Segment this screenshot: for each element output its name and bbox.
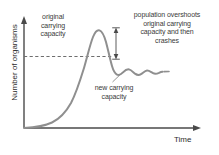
x-axis-arrowhead <box>193 125 201 131</box>
population-overshoot-diagram: original carrying capacity population ov… <box>0 0 219 155</box>
x-axis-label: Time <box>174 135 191 144</box>
overshoot-arrow-head-bottom <box>114 54 119 60</box>
x-axis <box>24 125 201 131</box>
annotation-population-overshoot: population overshoots original carrying … <box>117 11 217 45</box>
y-axis-label: Number of organisms <box>10 15 19 111</box>
annotation-new-carrying-capacity: new carrying capacity <box>81 84 147 101</box>
annotation-original-carrying-capacity: original carrying capacity <box>27 13 79 39</box>
